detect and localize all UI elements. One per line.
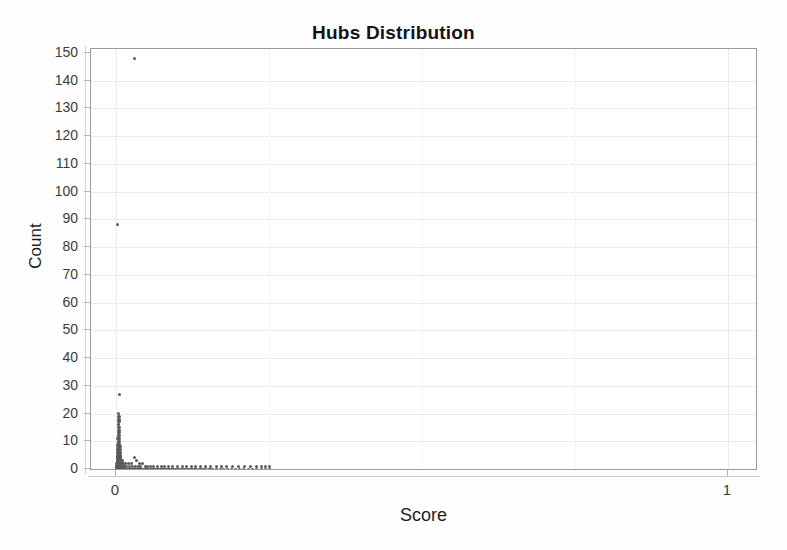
y-axis-tick-label: 100 bbox=[55, 183, 78, 199]
scatter-point bbox=[255, 468, 258, 471]
x-axis-title: Score bbox=[90, 505, 757, 526]
scatter-point bbox=[222, 468, 225, 471]
y-axis-tick-label: 50 bbox=[62, 321, 78, 337]
gridline-horizontal bbox=[91, 81, 756, 82]
y-axis-tick-label: 20 bbox=[62, 405, 78, 421]
scatter-point bbox=[242, 468, 245, 471]
gridline-horizontal bbox=[91, 386, 756, 387]
x-axis-tick-mark bbox=[727, 470, 728, 476]
gridline-horizontal bbox=[91, 275, 756, 276]
y-axis-tick-label: 150 bbox=[55, 44, 78, 60]
y-axis-title: Count bbox=[26, 186, 46, 306]
y-axis-tick-label: 0 bbox=[70, 460, 78, 476]
gridline-horizontal bbox=[91, 136, 756, 137]
scatter-point bbox=[219, 468, 222, 471]
y-axis-tick-label: 60 bbox=[62, 294, 78, 310]
scatter-point bbox=[247, 468, 250, 471]
gridline-horizontal bbox=[91, 414, 756, 415]
scatter-point bbox=[264, 468, 267, 471]
scatter-point bbox=[133, 57, 136, 60]
plot-area bbox=[90, 48, 757, 470]
y-axis-tick-label: 80 bbox=[62, 238, 78, 254]
scatter-point bbox=[118, 393, 121, 396]
y-axis-tick-label: 70 bbox=[62, 266, 78, 282]
y-axis-tick-label: 120 bbox=[55, 127, 78, 143]
gridline-vertical bbox=[116, 49, 117, 469]
gridline-horizontal bbox=[91, 192, 756, 193]
gridline-vertical-minor bbox=[575, 49, 576, 469]
scatter-point bbox=[260, 468, 263, 471]
gridline-horizontal bbox=[91, 108, 756, 109]
gridline-horizontal bbox=[91, 219, 756, 220]
y-axis-tick-label: 10 bbox=[62, 432, 78, 448]
chart-figure: Hubs Distribution 0102030405060708090100… bbox=[0, 0, 787, 550]
y-axis-tick-label: 30 bbox=[62, 377, 78, 393]
gridline-horizontal bbox=[91, 164, 756, 165]
x-axis-spine bbox=[88, 476, 760, 477]
gridline-vertical-minor bbox=[269, 49, 270, 469]
gridline-horizontal bbox=[91, 330, 756, 331]
y-axis-tick-label: 40 bbox=[62, 349, 78, 365]
scatter-point bbox=[226, 468, 229, 471]
x-axis-tick-label: 0 bbox=[111, 481, 119, 498]
y-axis-tick-label: 90 bbox=[62, 210, 78, 226]
gridline-vertical-minor bbox=[422, 49, 423, 469]
x-axis-tick-label: 1 bbox=[723, 481, 731, 498]
scatter-point bbox=[211, 468, 214, 471]
scatter-point bbox=[268, 468, 271, 471]
gridline-horizontal bbox=[91, 358, 756, 359]
gridline-horizontal bbox=[91, 247, 756, 248]
y-axis-tick-label: 110 bbox=[56, 155, 78, 171]
gridline-horizontal bbox=[91, 441, 756, 442]
chart-title: Hubs Distribution bbox=[0, 22, 787, 44]
y-axis-tick-label: 140 bbox=[55, 72, 78, 88]
scatter-point bbox=[251, 468, 254, 471]
scatter-point bbox=[215, 468, 218, 471]
scatter-point bbox=[230, 468, 233, 471]
scatter-point bbox=[238, 468, 241, 471]
x-axis-tick-mark bbox=[115, 470, 116, 476]
gridline-vertical bbox=[728, 49, 729, 469]
scatter-point bbox=[234, 468, 237, 471]
gridline-horizontal bbox=[91, 303, 756, 304]
y-axis-tick-label: 130 bbox=[55, 99, 78, 115]
